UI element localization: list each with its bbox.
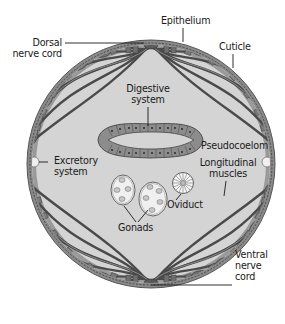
label-line: Ventral [235, 249, 268, 260]
label-line: Digestive [122, 83, 174, 94]
label-line: cord [235, 271, 268, 282]
label-gonads: Gonads [118, 222, 153, 233]
label-longitudinal-muscles: Longitudinal muscles [197, 157, 259, 179]
label-line: nerve [235, 260, 268, 271]
label-dorsal-nerve-cord: Dorsal nerve cord [12, 37, 62, 59]
label-oviduct: Oviduct [167, 199, 203, 210]
label-pseudocoelom: Pseudocoelom [201, 140, 268, 151]
label-epithelium: Epithelium [161, 15, 210, 26]
label-cuticle: Cuticle [219, 41, 251, 52]
label-ventral-nerve-cord: Ventral nerve cord [235, 249, 268, 282]
label-excretory-system: Excretory system [54, 155, 98, 177]
label-line: muscles [197, 168, 259, 179]
label-digestive-system: Digestive system [122, 83, 174, 105]
oviduct [173, 173, 194, 194]
label-line: system [122, 94, 174, 105]
label-line: Longitudinal [197, 157, 259, 168]
digestive-system [98, 124, 203, 158]
label-line: nerve cord [12, 48, 62, 59]
label-line: system [54, 166, 98, 177]
label-line: Dorsal [12, 37, 62, 48]
label-line: Excretory [54, 155, 98, 166]
